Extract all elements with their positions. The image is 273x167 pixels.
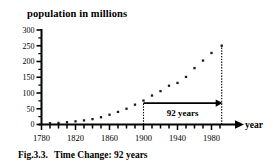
figure-container: population in millions 05010015020025030… <box>0 0 273 167</box>
data-point <box>49 122 51 124</box>
x-tick-label: 1900 <box>135 133 152 143</box>
x-axis-arrowhead <box>235 120 244 128</box>
figure-caption-text: Time Change: 92 years <box>54 150 148 160</box>
data-point <box>210 52 212 54</box>
x-tick-label: 1980 <box>203 133 220 143</box>
data-point <box>151 94 153 96</box>
x-tick-label: 1860 <box>101 133 118 143</box>
data-point <box>142 99 144 101</box>
data-point <box>108 114 110 116</box>
figure-caption-label: Fig.3.3. <box>18 150 48 160</box>
data-point <box>66 121 68 123</box>
data-point <box>185 76 187 78</box>
data-point <box>117 111 119 113</box>
data-point <box>57 122 59 124</box>
data-point <box>168 85 170 87</box>
x-tick-label: 1820 <box>67 133 84 143</box>
chart-render-group: 050100150200250300year178018201860190019… <box>23 26 264 143</box>
x-tick-label: 1780 <box>33 133 50 143</box>
figure-caption: Fig.3.3. Time Change: 92 years <box>18 150 148 160</box>
annotation-label: 92 years <box>167 108 199 118</box>
data-point <box>221 45 223 47</box>
data-point <box>159 90 161 92</box>
annotation-arrowhead <box>216 99 223 106</box>
data-point <box>83 119 85 121</box>
y-tick-label: 200 <box>23 57 35 66</box>
data-point <box>100 116 102 118</box>
data-point <box>134 104 136 106</box>
y-tick-label: 150 <box>23 73 35 82</box>
data-point <box>125 108 127 110</box>
data-point <box>74 120 76 122</box>
y-tick-label: 50 <box>27 105 35 114</box>
data-point <box>91 118 93 120</box>
data-point <box>193 67 195 69</box>
y-tick-label: 250 <box>23 42 35 51</box>
y-tick-label: 0 <box>31 120 35 129</box>
y-tick-label: 300 <box>23 26 35 35</box>
data-point <box>176 82 178 84</box>
data-point <box>202 59 204 61</box>
chart-plot: 050100150200250300year178018201860190019… <box>0 0 273 167</box>
x-tick-label: 1940 <box>169 133 186 143</box>
y-tick-label: 100 <box>23 89 35 98</box>
x-axis-end-label: year <box>245 120 264 130</box>
